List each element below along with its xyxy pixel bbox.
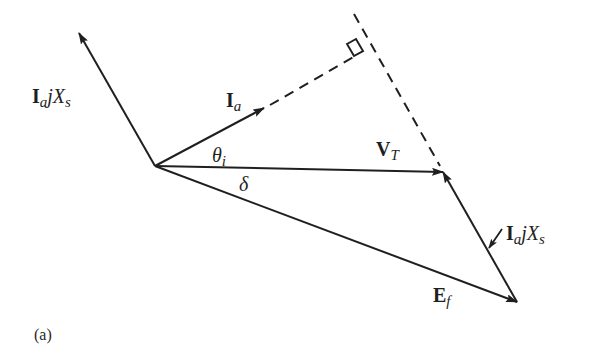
figure-caption: (a)	[34, 326, 52, 344]
ef-vector-arrow	[155, 166, 517, 302]
label-var-sub: s	[539, 231, 545, 247]
label-var: X	[527, 222, 539, 244]
label-iajxs-left: IajXs	[32, 86, 71, 106]
label-main: I	[32, 85, 40, 107]
label-ia: Ia	[226, 90, 241, 110]
label-main: I	[506, 222, 514, 244]
vt-vector-arrow	[155, 166, 443, 172]
ia-extension-dashed-line	[270, 55, 357, 105]
right-angle-marker	[347, 39, 363, 56]
ia-vector-arrow	[155, 108, 264, 166]
label-main: V	[376, 138, 390, 160]
label-var: X	[53, 85, 65, 107]
label-sub: a	[234, 98, 242, 114]
label-vt: VT	[376, 139, 399, 159]
label-main: δ	[239, 173, 248, 195]
label-sub: T	[390, 147, 398, 163]
label-iajxs-right: IajXs	[506, 223, 545, 243]
label-delta: δ	[239, 174, 248, 194]
label-main: I	[226, 89, 234, 111]
label-ef: Ef	[433, 285, 451, 305]
label-main: E	[433, 284, 446, 306]
label-main: θ	[212, 144, 222, 166]
label-theta-i: θi	[212, 145, 226, 165]
label-var-sub: s	[65, 94, 71, 110]
iajxs-left-vector-arrow	[79, 33, 155, 166]
iajxs-pointer-arrow	[489, 229, 502, 248]
label-sub: i	[222, 153, 226, 169]
phasor-diagram	[0, 0, 602, 359]
label-sub: f	[446, 293, 450, 309]
